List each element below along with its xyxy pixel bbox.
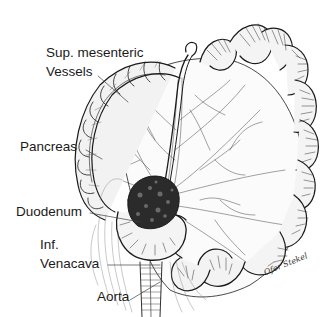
label-inf: Inf. xyxy=(40,237,59,253)
anatomy-illustration: Sup. mesenteric Vessels Pancreas Duodenu… xyxy=(0,0,333,317)
label-venacava: Venacava xyxy=(40,256,99,272)
label-aorta: Aorta xyxy=(97,289,129,305)
label-sup-mesenteric: Sup. mesenteric xyxy=(46,45,144,61)
leader-aorta xyxy=(130,282,160,300)
label-pancreas: Pancreas xyxy=(20,139,77,155)
label-vessels: Vessels xyxy=(46,64,93,80)
label-duodenum: Duodenum xyxy=(16,204,82,220)
